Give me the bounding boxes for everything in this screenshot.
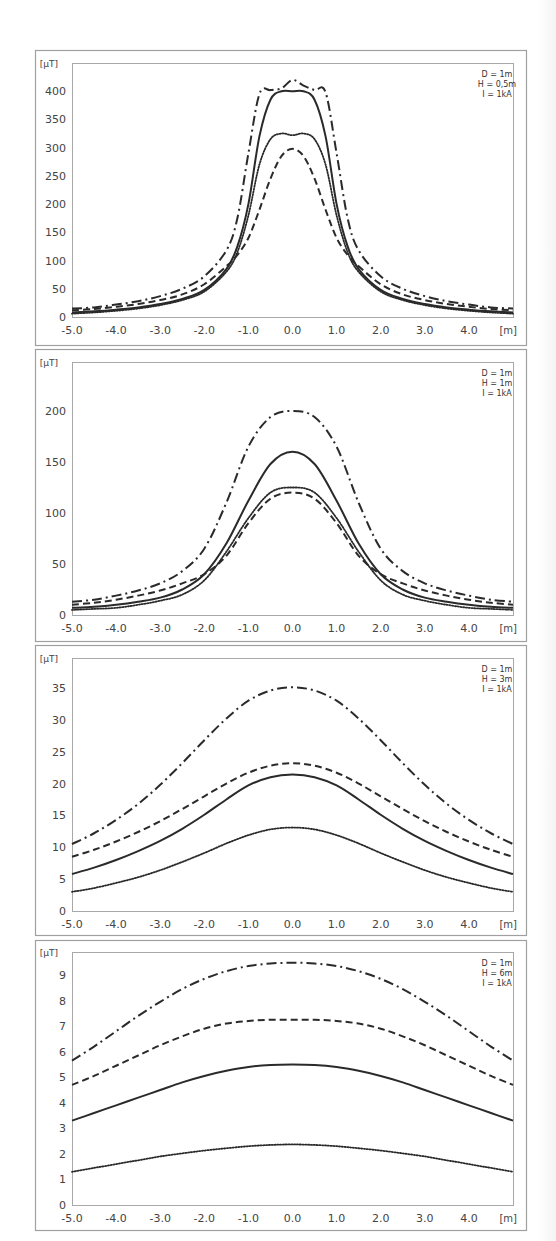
y-tick-label: 250 xyxy=(45,170,66,183)
parameter-annotation: D = 1m xyxy=(482,959,513,968)
y-tick-label: 5 xyxy=(59,873,66,886)
parameter-annotation: D = 1m xyxy=(482,70,513,79)
y-tick-label: 150 xyxy=(45,456,66,469)
x-tick-label: -1.0 xyxy=(238,918,259,931)
x-tick-label: -5.0 xyxy=(61,324,82,337)
plot-area xyxy=(73,659,514,912)
plot-area xyxy=(73,64,514,318)
x-tick-label: 0.0 xyxy=(284,1212,302,1225)
x-tick-label: -5.0 xyxy=(61,1212,82,1225)
x-tick-label: -3.0 xyxy=(149,622,170,635)
y-tick-label: 30 xyxy=(52,714,66,727)
parameter-annotation: D = 1m xyxy=(482,369,513,378)
x-tick-label: 0.0 xyxy=(284,324,302,337)
chart-3: [µT]05101520253035-5.0-4.0-3.0-2.0-1.00.… xyxy=(36,646,527,936)
x-tick-label: -2.0 xyxy=(194,918,215,931)
parameter-annotation: H = 1m xyxy=(482,379,513,388)
x-tick-label: 1.0 xyxy=(328,622,346,635)
y-tick-label: 1 xyxy=(59,1173,66,1186)
x-tick-label: 2.0 xyxy=(372,1212,390,1225)
x-axis-unit: [m] xyxy=(499,325,517,336)
x-tick-label: 4.0 xyxy=(460,918,478,931)
y-axis-unit: [µT] xyxy=(40,358,58,368)
x-tick-label: -5.0 xyxy=(61,918,82,931)
x-tick-label: 3.0 xyxy=(416,622,434,635)
y-tick-label: 5 xyxy=(59,1071,66,1084)
parameter-annotation: H = 0,5m xyxy=(478,80,517,89)
parameter-annotation: D = 1m xyxy=(482,665,513,674)
x-tick-label: 3.0 xyxy=(416,918,434,931)
chart-1: [µT]050100150200250300350400-5.0-4.0-3.0… xyxy=(36,51,527,346)
y-tick-label: 100 xyxy=(45,255,66,268)
y-axis-unit: [µT] xyxy=(40,59,58,69)
y-tick-label: 25 xyxy=(52,746,66,759)
y-axis-unit: [µT] xyxy=(40,654,58,664)
y-tick-label: 20 xyxy=(52,778,66,791)
y-tick-label: 7 xyxy=(59,1020,66,1033)
x-tick-label: -4.0 xyxy=(105,324,126,337)
x-tick-label: 2.0 xyxy=(372,622,390,635)
x-tick-label: 0.0 xyxy=(284,622,302,635)
x-tick-label: -4.0 xyxy=(105,918,126,931)
x-tick-label: -2.0 xyxy=(194,1212,215,1225)
x-tick-label: -2.0 xyxy=(194,622,215,635)
y-tick-label: 8 xyxy=(59,995,66,1008)
parameter-annotation: I = 1kA xyxy=(482,979,512,988)
x-tick-label: 4.0 xyxy=(460,1212,478,1225)
y-axis-unit: [µT] xyxy=(40,948,58,958)
x-tick-label: -2.0 xyxy=(194,324,215,337)
parameter-annotation: I = 1kA xyxy=(482,90,512,99)
y-tick-label: 300 xyxy=(45,142,66,155)
x-tick-label: 4.0 xyxy=(460,324,478,337)
plot-area xyxy=(73,363,514,616)
y-tick-label: 0 xyxy=(59,905,66,918)
x-tick-label: 1.0 xyxy=(328,1212,346,1225)
x-tick-label: -3.0 xyxy=(149,324,170,337)
plot-area xyxy=(73,953,514,1206)
x-tick-label: 2.0 xyxy=(372,918,390,931)
y-tick-label: 3 xyxy=(59,1122,66,1135)
x-tick-label: -1.0 xyxy=(238,1212,259,1225)
x-tick-label: -1.0 xyxy=(238,324,259,337)
y-tick-label: 6 xyxy=(59,1046,66,1059)
x-tick-label: -1.0 xyxy=(238,622,259,635)
y-tick-label: 15 xyxy=(52,809,66,822)
x-tick-label: 0.0 xyxy=(284,918,302,931)
y-tick-label: 200 xyxy=(45,405,66,418)
y-tick-label: 200 xyxy=(45,198,66,211)
x-tick-label: 1.0 xyxy=(328,324,346,337)
y-tick-label: 9 xyxy=(59,969,66,982)
x-tick-label: 2.0 xyxy=(372,324,390,337)
chart-4: [µT]0123456789-5.0-4.0-3.0-2.0-1.00.01.0… xyxy=(36,941,527,1231)
x-tick-label: 3.0 xyxy=(416,1212,434,1225)
x-tick-label: -4.0 xyxy=(105,622,126,635)
y-tick-label: 2 xyxy=(59,1148,66,1161)
y-tick-label: 150 xyxy=(45,226,66,239)
x-tick-label: -3.0 xyxy=(149,918,170,931)
y-tick-label: 100 xyxy=(45,507,66,520)
x-axis-unit: [m] xyxy=(499,1213,517,1224)
y-tick-label: 35 xyxy=(52,682,66,695)
parameter-annotation: H = 6m xyxy=(482,969,513,978)
y-tick-label: 50 xyxy=(52,283,66,296)
y-tick-label: 0 xyxy=(59,609,66,622)
x-axis-unit: [m] xyxy=(499,623,517,634)
parameter-annotation: I = 1kA xyxy=(482,389,512,398)
y-tick-label: 4 xyxy=(59,1097,66,1110)
x-tick-label: -4.0 xyxy=(105,1212,126,1225)
x-tick-label: -5.0 xyxy=(61,622,82,635)
x-tick-label: 4.0 xyxy=(460,622,478,635)
y-tick-label: 400 xyxy=(45,85,66,98)
chart-2: [µT]050100150200-5.0-4.0-3.0-2.0-1.00.01… xyxy=(36,350,527,642)
charts-svg: [µT]050100150200250300350400-5.0-4.0-3.0… xyxy=(0,0,556,1241)
parameter-annotation: H = 3m xyxy=(482,675,513,684)
y-tick-label: 50 xyxy=(52,558,66,571)
y-tick-label: 350 xyxy=(45,113,66,126)
y-tick-label: 0 xyxy=(59,1199,66,1212)
x-tick-label: -3.0 xyxy=(149,1212,170,1225)
y-tick-label: 0 xyxy=(59,311,66,324)
parameter-annotation: I = 1kA xyxy=(482,685,512,694)
x-tick-label: 3.0 xyxy=(416,324,434,337)
x-tick-label: 1.0 xyxy=(328,918,346,931)
y-tick-label: 10 xyxy=(52,841,66,854)
